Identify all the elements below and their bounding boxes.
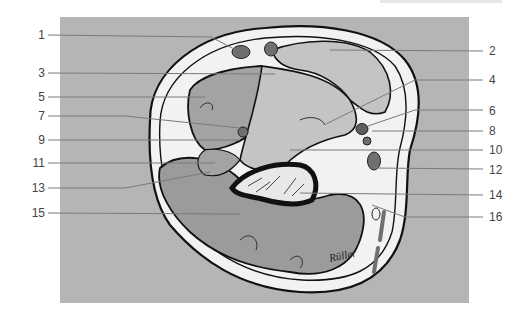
label-16: 16 bbox=[489, 211, 519, 223]
vessel-12 bbox=[368, 152, 381, 170]
vessel-16 bbox=[372, 208, 380, 220]
label-13: 13 bbox=[15, 182, 45, 194]
label-12: 12 bbox=[489, 164, 519, 176]
label-1: 1 bbox=[15, 29, 45, 41]
label-4: 4 bbox=[489, 74, 519, 86]
label-15: 15 bbox=[15, 207, 45, 219]
vessel-7 bbox=[238, 127, 248, 137]
vessel-near-2 bbox=[265, 42, 278, 56]
label-9: 9 bbox=[15, 134, 45, 146]
vessel-8 bbox=[363, 137, 371, 145]
vessel-1 bbox=[232, 46, 250, 59]
label-3: 3 bbox=[15, 67, 45, 79]
label-5: 5 bbox=[15, 91, 45, 103]
vessel-6 bbox=[356, 124, 368, 135]
label-7: 7 bbox=[15, 110, 45, 122]
label-10: 10 bbox=[489, 144, 519, 156]
label-11: 11 bbox=[15, 157, 45, 169]
label-2: 2 bbox=[489, 45, 519, 57]
label-14: 14 bbox=[489, 189, 519, 201]
label-8: 8 bbox=[489, 125, 519, 137]
cross-section-illustration: Rüller bbox=[0, 0, 525, 321]
label-6: 6 bbox=[489, 105, 519, 117]
